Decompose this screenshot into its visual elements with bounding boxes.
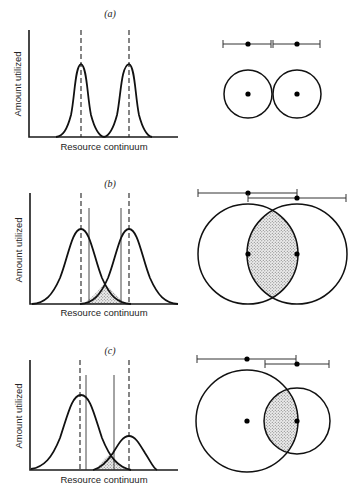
panel-label-b: (b) <box>104 178 116 190</box>
range-bar-a1 <box>223 40 271 48</box>
center-dot-c1 <box>244 418 249 423</box>
x-axis-label-b: Resource continuum <box>60 307 147 318</box>
utilization-graph-c: Amount utilized Resource continuum <box>13 360 178 485</box>
axes-a <box>29 30 178 137</box>
utilization-curve-c1 <box>31 395 131 470</box>
panel-label-c: (c) <box>104 345 116 357</box>
panel-a: (a) Amount utilized Resource continuum <box>12 8 321 152</box>
y-axis-label-b: Amount utilized <box>13 218 24 283</box>
panel-c: (c) Amount utilized Resource continuum <box>13 345 330 485</box>
x-axis-label-a: Resource continuum <box>60 141 147 152</box>
panel-b: (b) Amount utilized Resource continuum <box>13 178 347 318</box>
utilization-curve-a1 <box>56 64 104 137</box>
venn-diagram-b <box>198 189 347 304</box>
center-dot-b2 <box>294 251 299 256</box>
y-axis-label-c: Amount utilized <box>13 384 24 449</box>
range-bar-c2 <box>265 360 329 368</box>
utilization-graph-b: Amount utilized Resource continuum <box>13 193 178 318</box>
center-dot-a2 <box>294 91 299 96</box>
range-bar-a2 <box>273 40 320 48</box>
utilization-curve-a2 <box>104 64 152 137</box>
panel-label-a: (a) <box>104 8 116 20</box>
venn-diagram-a <box>223 40 321 118</box>
utilization-graph-a: Amount utilized Resource continuum <box>12 30 178 152</box>
center-dot-b1 <box>245 251 250 256</box>
x-axis-label-c: Resource continuum <box>60 474 147 485</box>
center-dot-a1 <box>245 91 250 96</box>
venn-diagram-c <box>196 355 330 472</box>
y-axis-label-a: Amount utilized <box>12 52 23 117</box>
range-bar-c1 <box>197 355 296 363</box>
center-dot-c2 <box>294 418 299 423</box>
niche-overlap-figure: (a) Amount utilized Resource continuum <box>0 0 362 496</box>
